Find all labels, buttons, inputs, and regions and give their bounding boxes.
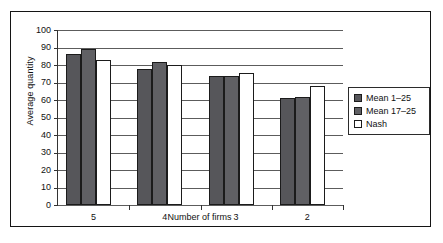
legend-item[interactable]: Nash — [354, 118, 425, 130]
y-tick-label: 80 — [25, 61, 51, 70]
bar[interactable] — [81, 49, 96, 205]
bar[interactable] — [239, 73, 254, 205]
bar-group — [58, 30, 129, 205]
y-tick-mark — [54, 205, 58, 206]
legend-swatch-icon — [354, 94, 362, 102]
chart-legend: Mean 1–25Mean 17–25Nash — [348, 87, 430, 135]
bar[interactable] — [167, 65, 182, 205]
x-tick-mark — [129, 205, 130, 210]
legend-label: Mean 1–25 — [366, 93, 411, 103]
bar[interactable] — [209, 76, 224, 206]
y-tick-label: 70 — [25, 78, 51, 87]
y-tick-label: 90 — [25, 43, 51, 52]
y-tick-label: 100 — [25, 26, 51, 35]
plot-area: 5432 — [57, 30, 343, 206]
y-tick-label: 30 — [25, 148, 51, 157]
bar-series-layer — [58, 30, 343, 205]
x-tick-mark — [343, 205, 344, 210]
legend-item[interactable]: Mean 1–25 — [354, 92, 425, 104]
bar[interactable] — [310, 86, 325, 205]
y-tick-label: 10 — [25, 183, 51, 192]
legend-item[interactable]: Mean 17–25 — [354, 105, 425, 117]
bar[interactable] — [96, 60, 111, 205]
bar[interactable] — [152, 62, 167, 205]
bar[interactable] — [66, 54, 81, 205]
y-tick-label: 0 — [25, 201, 51, 210]
legend-label: Nash — [366, 119, 387, 129]
x-tick-mark — [272, 205, 273, 210]
bar-group — [201, 30, 272, 205]
y-tick-label: 40 — [25, 131, 51, 140]
bar[interactable] — [280, 98, 295, 205]
legend-swatch-icon — [354, 107, 362, 115]
legend-swatch-icon — [354, 120, 362, 128]
chart-figure-frame: Average quantity 1009080706050403020100 … — [10, 11, 431, 227]
x-axis-title: Number of firms — [57, 212, 342, 222]
y-tick-label: 50 — [25, 113, 51, 122]
y-tick-label: 20 — [25, 166, 51, 175]
x-tick-mark — [201, 205, 202, 210]
bar-group — [272, 30, 343, 205]
bar[interactable] — [137, 69, 152, 206]
bar[interactable] — [224, 76, 239, 205]
y-tick-label: 60 — [25, 96, 51, 105]
bar-group — [129, 30, 200, 205]
y-axis-tick-labels: 1009080706050403020100 — [25, 30, 51, 205]
legend-label: Mean 17–25 — [366, 106, 416, 116]
bar[interactable] — [295, 97, 310, 206]
